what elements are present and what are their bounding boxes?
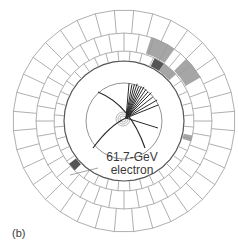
panel-label: (b) <box>12 227 25 239</box>
detector-event-display: 61.7-GeV electron (b) <box>0 0 238 246</box>
cell-divider <box>178 166 192 178</box>
energy-deposit-cell <box>174 59 200 86</box>
cell-divider <box>80 45 89 61</box>
cell-divider <box>48 156 64 165</box>
cell-divider <box>80 182 89 198</box>
cell-divider <box>118 51 119 61</box>
cell-divider <box>23 74 44 84</box>
cell-divider <box>67 54 79 68</box>
cell-divider <box>41 145 58 151</box>
cell-divider <box>84 64 90 72</box>
cell-divider <box>186 183 202 199</box>
cell-divider <box>109 190 112 208</box>
cell-divider <box>77 201 87 222</box>
cell-divider <box>173 81 181 87</box>
tracking-chamber <box>86 83 162 159</box>
cell-divider <box>33 57 52 70</box>
cell-divider <box>46 43 62 59</box>
cell-divider <box>114 10 116 33</box>
cell-divider <box>140 179 143 189</box>
cell-divider <box>60 30 73 49</box>
cell-divider <box>193 133 211 136</box>
electron-energy-annotation: 61.7-GeV electron <box>102 151 162 177</box>
cell-divider <box>33 171 52 184</box>
cell-divider <box>209 92 231 98</box>
cell-divider <box>209 144 231 150</box>
cell-divider <box>159 182 168 198</box>
cell-divider <box>94 38 100 55</box>
cell-divider <box>184 115 194 116</box>
particle-name: electron <box>102 164 162 177</box>
cell-divider <box>148 187 154 204</box>
cell-divider <box>109 34 112 52</box>
cell-divider <box>182 103 192 106</box>
cell-divider <box>57 166 71 178</box>
cell-divider <box>94 58 98 67</box>
cell-divider <box>212 111 235 113</box>
cell-divider <box>56 103 66 106</box>
cell-divider <box>174 193 187 212</box>
tracker-boundary <box>86 83 162 159</box>
cell-divider <box>204 74 225 84</box>
cell-divider <box>178 146 187 150</box>
cell-divider <box>161 201 171 222</box>
cell-divider <box>95 14 101 36</box>
cell-divider <box>67 155 75 161</box>
cell-divider <box>132 10 134 33</box>
cell-divider <box>136 34 139 52</box>
cell-divider <box>41 91 58 97</box>
cell-divider <box>174 30 187 49</box>
cell-divider <box>193 106 211 109</box>
calorimeter-grid <box>13 10 234 231</box>
cell-divider <box>61 146 70 150</box>
cell-divider <box>37 133 55 136</box>
cell-divider <box>196 171 215 184</box>
cell-divider <box>77 20 87 41</box>
calorimeter-diagram <box>0 0 238 246</box>
cell-divider <box>54 115 64 116</box>
cell-divider <box>106 179 109 189</box>
cell-divider <box>129 51 130 61</box>
cell-divider <box>129 181 130 191</box>
cell-divider <box>118 181 119 191</box>
cell-divider <box>178 91 187 95</box>
cell-divider <box>57 64 71 76</box>
cell-divider <box>23 158 44 168</box>
cell-divider <box>186 43 202 59</box>
cell-divider <box>161 20 171 41</box>
cell-divider <box>56 137 66 140</box>
cell-divider <box>196 57 215 70</box>
cell-divider <box>46 183 62 199</box>
cell-divider <box>132 209 134 232</box>
cell-divider <box>13 129 36 131</box>
cell-divider <box>140 53 143 63</box>
cell-divider <box>185 156 201 165</box>
cell-divider <box>147 206 153 228</box>
cell-divider <box>114 209 116 232</box>
cell-divider <box>106 53 109 63</box>
cell-divider <box>184 126 194 127</box>
cell-divider <box>67 81 75 87</box>
cell-divider <box>37 106 55 109</box>
cell-divider <box>169 54 181 68</box>
cell-divider <box>136 190 139 208</box>
cell-divider <box>147 14 153 36</box>
cell-divider <box>166 163 173 170</box>
cell-divider <box>204 158 225 168</box>
cell-divider <box>17 92 39 98</box>
cell-divider <box>54 126 64 127</box>
cell-divider <box>13 111 36 113</box>
electron-track <box>93 118 126 148</box>
cell-divider <box>94 175 98 184</box>
cell-divider <box>173 155 181 161</box>
cell-divider <box>95 206 101 228</box>
cell-divider <box>190 145 207 151</box>
cell-divider <box>212 129 235 131</box>
cell-divider <box>67 175 79 189</box>
cell-divider <box>61 91 70 95</box>
cell-divider <box>169 175 181 189</box>
cell-divider <box>94 187 100 204</box>
cell-divider <box>75 72 82 79</box>
cell-divider <box>190 91 207 97</box>
cell-divider <box>60 193 73 212</box>
